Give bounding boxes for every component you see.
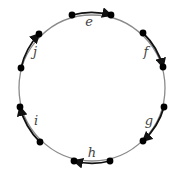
edge-label-i: i [34, 113, 38, 128]
edge-label-f: f [143, 44, 151, 59]
edge-label-e: e [85, 14, 93, 29]
dots-layer [17, 12, 168, 165]
node-dot [140, 138, 147, 145]
edge-label-g: g [145, 113, 153, 128]
node-dot [71, 158, 78, 165]
labels-layer: efghij [30, 14, 153, 160]
node-dot [140, 30, 147, 37]
edge-label-j: j [30, 44, 37, 59]
node-dot [107, 158, 114, 165]
node-dot [37, 139, 44, 146]
node-dot [18, 65, 25, 72]
cycle-diagram: efghij [0, 0, 176, 175]
node-dot [69, 12, 76, 19]
node-dot [160, 64, 167, 71]
node-dot [36, 31, 43, 38]
edge-label-h: h [88, 145, 96, 160]
node-dot [108, 12, 115, 19]
node-dot [17, 104, 24, 111]
node-dot [161, 104, 168, 111]
